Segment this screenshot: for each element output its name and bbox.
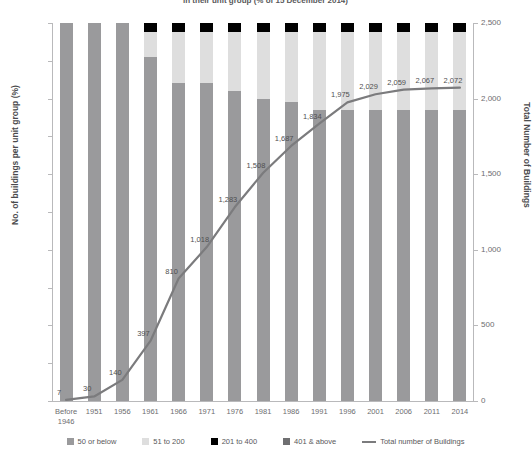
bar-segment[interactable] — [425, 23, 438, 32]
bar-segment[interactable] — [397, 23, 410, 32]
x-axis-tick-label-line1: 1991 — [305, 407, 333, 417]
bar-segment[interactable] — [144, 57, 157, 401]
y-axis-right-tick-label: 1,000 — [481, 246, 525, 254]
line-point-label: 1,975 — [331, 90, 350, 99]
x-axis-tick-label: 1956 — [108, 407, 136, 417]
y-axis-right-tick-label: 2,000 — [481, 95, 525, 103]
bar-segment[interactable] — [200, 32, 213, 83]
bar-column[interactable] — [116, 23, 129, 401]
x-axis-tick-label: 1976 — [221, 407, 249, 417]
bar-segment[interactable] — [144, 32, 157, 57]
legend-label: 401 & above — [294, 437, 336, 446]
bar-segment[interactable] — [369, 110, 382, 401]
x-axis-tick-label-line1: 1966 — [165, 407, 193, 417]
y-axis-left-tick — [48, 325, 52, 326]
line-point-label: 7 — [57, 388, 61, 397]
x-axis-tick-label-line1: Before — [52, 407, 80, 417]
bar-column[interactable] — [341, 23, 354, 401]
y-axis-right-tick — [474, 325, 478, 326]
bar-segment[interactable] — [397, 110, 410, 401]
line-point-label: 1,508 — [247, 161, 266, 170]
legend-color-swatch — [283, 438, 290, 445]
bar-column[interactable] — [88, 23, 101, 401]
bar-segment[interactable] — [369, 32, 382, 109]
bar-segment[interactable] — [341, 23, 354, 32]
bar-column[interactable] — [200, 23, 213, 401]
line-point-label: 2,072 — [444, 76, 463, 85]
legend-item[interactable]: 201 to 400 — [211, 437, 257, 446]
legend-color-swatch — [211, 438, 218, 445]
bar-segment[interactable] — [257, 23, 270, 32]
bar-segment[interactable] — [228, 32, 241, 91]
bar-segment[interactable] — [172, 23, 185, 32]
bar-column[interactable] — [144, 23, 157, 401]
bar-segment[interactable] — [425, 32, 438, 109]
bar-segment[interactable] — [257, 99, 270, 401]
bar-segment[interactable] — [453, 110, 466, 401]
y-axis-right-tick-label: 2,500 — [481, 19, 525, 27]
bar-segment[interactable] — [172, 32, 185, 83]
legend-item[interactable]: Total number of Buildings — [362, 437, 464, 446]
bar-column[interactable] — [60, 23, 73, 401]
line-point-label: 810 — [165, 267, 178, 276]
legend-item[interactable]: 401 & above — [283, 437, 336, 446]
y-axis-left-tick — [48, 212, 52, 213]
x-axis-tick-label: 2014 — [446, 407, 474, 417]
bar-column[interactable] — [172, 23, 185, 401]
bar-segment[interactable] — [60, 23, 73, 401]
x-axis-tick-label-line1: 1986 — [277, 407, 305, 417]
bar-segment[interactable] — [257, 32, 270, 98]
bar-segment[interactable] — [228, 91, 241, 401]
y-axis-right-tick — [474, 174, 478, 175]
bar-segment[interactable] — [88, 23, 101, 401]
bar-segment[interactable] — [313, 32, 326, 109]
bar-segment[interactable] — [369, 23, 382, 32]
chart-legend: 50 or below51 to 200201 to 400401 & abov… — [0, 437, 531, 446]
bar-column[interactable] — [285, 23, 298, 401]
bar-segment[interactable] — [397, 32, 410, 109]
x-axis-tick-label-line1: 1981 — [249, 407, 277, 417]
legend-item[interactable]: 50 or below — [67, 437, 117, 446]
bar-segment[interactable] — [453, 23, 466, 32]
y-axis-left-line — [52, 23, 53, 402]
line-point-label: 1,283 — [218, 195, 237, 204]
bar-segment[interactable] — [285, 102, 298, 401]
x-axis-tick-label: 1966 — [165, 407, 193, 417]
bar-segment[interactable] — [285, 23, 298, 32]
bar-segment[interactable] — [425, 110, 438, 401]
bar-segment[interactable] — [228, 23, 241, 32]
bar-segment[interactable] — [313, 23, 326, 32]
x-axis-tick-label: 1986 — [277, 407, 305, 417]
x-axis-tick-label-line1: 1996 — [333, 407, 361, 417]
bar-segment[interactable] — [144, 23, 157, 32]
x-axis-tick-label: 1991 — [305, 407, 333, 417]
x-axis-tick-label: 2001 — [361, 407, 389, 417]
bar-segment[interactable] — [453, 32, 466, 109]
x-axis-tick-label-line1: 1971 — [193, 407, 221, 417]
bar-segment[interactable] — [313, 110, 326, 401]
x-axis-tick-label: Before1946 — [52, 407, 80, 426]
bar-segment[interactable] — [116, 23, 129, 401]
bar-column[interactable] — [369, 23, 382, 401]
bar-column[interactable] — [257, 23, 270, 401]
x-axis-tick-label: 2011 — [418, 407, 446, 417]
bar-segment[interactable] — [200, 23, 213, 32]
legend-label: 51 to 200 — [153, 437, 184, 446]
legend-item[interactable]: 51 to 200 — [142, 437, 184, 446]
x-axis-tick-label-line1: 2001 — [361, 407, 389, 417]
y-axis-left-tick — [48, 23, 52, 24]
legend-label: 201 to 400 — [222, 437, 257, 446]
bar-segment[interactable] — [285, 32, 298, 102]
bar-segment[interactable] — [341, 110, 354, 401]
bar-segment[interactable] — [172, 83, 185, 401]
line-point-label: 2,067 — [415, 76, 434, 85]
x-axis-tick-label: 1971 — [193, 407, 221, 417]
y-axis-left-tick — [48, 288, 52, 289]
y-axis-left-tick — [48, 401, 52, 402]
y-axis-right-title: Total Number of Buildings — [522, 55, 532, 255]
x-axis-tick-label-line1: 2006 — [390, 407, 418, 417]
bar-column[interactable] — [313, 23, 326, 401]
bar-column[interactable] — [228, 23, 241, 401]
line-point-label: 1,687 — [275, 134, 294, 143]
